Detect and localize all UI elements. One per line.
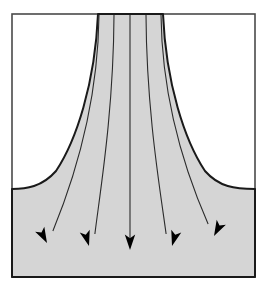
figure-root: A funnel-shaped shaded region narrow at … <box>0 0 267 292</box>
flow-field-diagram <box>0 0 267 292</box>
